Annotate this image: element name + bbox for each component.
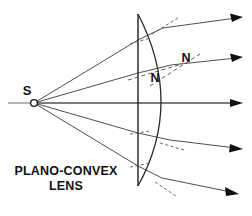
arrow-head-icon-5: [225, 187, 239, 196]
caption-line-1: PLANO-CONVEX: [14, 164, 118, 178]
incident-rays-group: [34, 40, 138, 166]
normal-label-outer: N: [181, 51, 190, 65]
emergent-ray-5: [162, 178, 231, 192]
source-point-marker: [31, 100, 38, 107]
internal-ray-5: [138, 166, 162, 178]
arrow-head-icon-1: [230, 14, 243, 23]
internal-rays-group: [138, 28, 176, 178]
caption-line-2: LENS: [49, 179, 83, 193]
incident-ray-1: [34, 40, 138, 103]
source-label: S: [23, 83, 32, 98]
normal-tick-ray5-outer: [155, 182, 176, 196]
lens-body-group: [138, 14, 161, 186]
emergent-ray-1: [163, 18, 236, 28]
emergent-rays-group: [162, 18, 236, 192]
incident-ray-4: [34, 103, 138, 133]
incident-ray-5: [34, 103, 138, 166]
ray-diagram-svg: S N N PLANO-CONVEX LENS: [0, 0, 252, 216]
emergent-ray-4: [170, 140, 236, 148]
arrow-head-icon-3: [230, 99, 243, 107]
arrow-head-icon-4: [229, 144, 243, 153]
arrow-head-icon-2: [230, 54, 243, 63]
normals-group: [128, 18, 200, 196]
arrow-heads-group: [225, 14, 243, 197]
normal-label-inner: N: [150, 71, 159, 85]
source-point-group: [31, 100, 38, 107]
normal-tick-ray4-outer: [160, 143, 184, 150]
internal-ray-4: [138, 133, 170, 140]
incident-ray-2: [34, 73, 138, 103]
lens-convex-surface: [138, 14, 161, 186]
figure-root: S N N PLANO-CONVEX LENS: [0, 0, 252, 216]
